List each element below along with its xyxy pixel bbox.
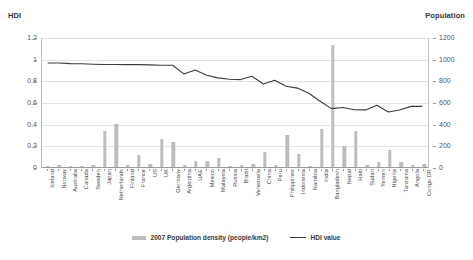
left-axis-tick-label: 1.2 (7, 34, 37, 41)
x-axis-label: Philippines (289, 169, 295, 197)
line-swatch-icon (290, 237, 306, 238)
x-axis-tickmark (332, 169, 333, 171)
x-axis-label: Sweden (95, 169, 101, 190)
right-axis-tick-label: 800 (439, 77, 471, 84)
x-axis-label: Japan (106, 169, 112, 185)
x-axis-label: Haiti (357, 169, 363, 181)
x-axis-tickmark (172, 169, 173, 171)
x-axis-label: Peru (277, 169, 283, 181)
right-axis-tick-label: 600 (439, 99, 471, 106)
x-axis-label: Germany (175, 169, 181, 193)
left-axis-tickmark (34, 38, 37, 39)
right-axis-tickmark (433, 146, 436, 147)
x-axis-labels: IcelandNorwayAustraliaCanadaSwedenJapanN… (41, 169, 429, 227)
x-axis-label: Mexico (209, 169, 215, 187)
x-axis-tickmark (264, 169, 265, 171)
x-axis-tickmark (309, 169, 310, 171)
x-axis-label: China (266, 169, 272, 184)
x-axis-tickmark (47, 169, 48, 171)
x-axis-tickmark (298, 169, 299, 171)
x-axis-tickmark (195, 169, 196, 171)
x-axis-label: Canada (83, 169, 89, 189)
x-axis-tickmark (321, 169, 322, 171)
x-axis-label: UK (163, 169, 169, 177)
x-axis-label: Iceland (49, 169, 55, 188)
x-axis-label: Russia (232, 169, 238, 187)
right-axis-tick-label: 200 (439, 142, 471, 149)
x-axis-label: UAE (197, 169, 203, 181)
right-axis-ticks: 020040060080010001200 (433, 38, 469, 168)
right-axis-tick-label: 400 (439, 121, 471, 128)
legend-label-hdi: HDI value (310, 234, 340, 241)
right-axis-tickmark (433, 38, 436, 39)
x-axis-label: Norway (61, 169, 67, 189)
left-axis-tickmark (34, 125, 37, 126)
left-axis-tick-label: 0.6 (7, 99, 37, 106)
combo-chart: HDI Population 00.20.40.60.811.2 0200400… (0, 0, 473, 260)
x-axis-tickmark (104, 169, 105, 171)
right-axis-tickmark (433, 125, 436, 126)
x-axis-tickmark (81, 169, 82, 171)
x-axis-label: Finland (129, 169, 135, 188)
right-axis-tickmark (433, 60, 436, 61)
x-axis-label: Angola (414, 169, 420, 187)
left-axis-tick-label: 0.2 (7, 142, 37, 149)
x-axis-label: Venezuela (255, 169, 261, 196)
x-axis-label: Argentina (186, 169, 192, 194)
x-axis-tickmark (229, 169, 230, 171)
x-axis-tickmark (206, 169, 207, 171)
x-axis-label: Bangladesh (334, 169, 340, 200)
right-axis-tick-label: 1000 (439, 56, 471, 63)
x-axis-label: India (323, 169, 329, 182)
left-axis-tickmark (34, 168, 37, 169)
x-axis-label: Indonesia (300, 169, 306, 194)
x-axis-label: Nepal (346, 169, 352, 184)
x-axis-tickmark (138, 169, 139, 171)
legend-label-population: 2007 Population density (people/km2) (150, 234, 268, 241)
x-axis-label: Yemen (380, 169, 386, 187)
x-axis-tickmark (58, 169, 59, 171)
right-axis-tickmark (433, 81, 436, 82)
x-axis-label: Australia (72, 169, 78, 192)
left-axis-ticks: 00.20.40.60.811.2 (4, 38, 37, 168)
legend-item-population: 2007 Population density (people/km2) (132, 234, 268, 241)
x-axis-tickmark (218, 169, 219, 171)
x-axis-tickmark (286, 169, 287, 171)
x-axis-label: Tanzania (403, 169, 409, 192)
x-axis-tickmark (92, 169, 93, 171)
x-axis-tickmark (366, 169, 367, 171)
x-axis-tickmark (241, 169, 242, 171)
left-axis-tickmark (34, 60, 37, 61)
x-axis-tickmark (149, 169, 150, 171)
x-axis-tickmark (127, 169, 128, 171)
bar-swatch-icon (132, 236, 146, 240)
x-axis-label: US (152, 169, 158, 177)
x-axis-label: Nigeria (391, 169, 397, 187)
left-axis-tickmark (34, 146, 37, 147)
x-axis-label: Malaysia (220, 169, 226, 192)
chart-legend: 2007 Population density (people/km2) HDI… (0, 234, 473, 241)
x-axis-label: Brazil (243, 169, 249, 184)
x-axis-tickmark (423, 169, 424, 171)
x-axis-tickmark (412, 169, 413, 171)
x-axis-tickmark (389, 169, 390, 171)
right-axis-tickmark (433, 103, 436, 104)
x-axis-tickmark (400, 169, 401, 171)
x-axis-tickmark (70, 169, 71, 171)
left-axis-tick-label: 1 (7, 56, 37, 63)
x-axis-label: Namibia (312, 169, 318, 190)
left-axis-tick-label: 0.4 (7, 121, 37, 128)
x-axis-tickmark (161, 169, 162, 171)
right-axis-tick-label: 0 (439, 164, 471, 171)
x-axis-tickmark (378, 169, 379, 171)
left-axis-tickmark (34, 81, 37, 82)
x-axis-tickmark (115, 169, 116, 171)
left-axis-title: HDI (8, 11, 21, 20)
legend-item-hdi: HDI value (290, 234, 340, 241)
hdi-line-series (42, 38, 428, 167)
x-axis-tickmark (355, 169, 356, 171)
x-axis-label: Sudan (369, 169, 375, 186)
x-axis-tickmark (343, 169, 344, 171)
left-axis-tick-label: 0 (7, 164, 37, 171)
x-axis-tickmark (184, 169, 185, 171)
